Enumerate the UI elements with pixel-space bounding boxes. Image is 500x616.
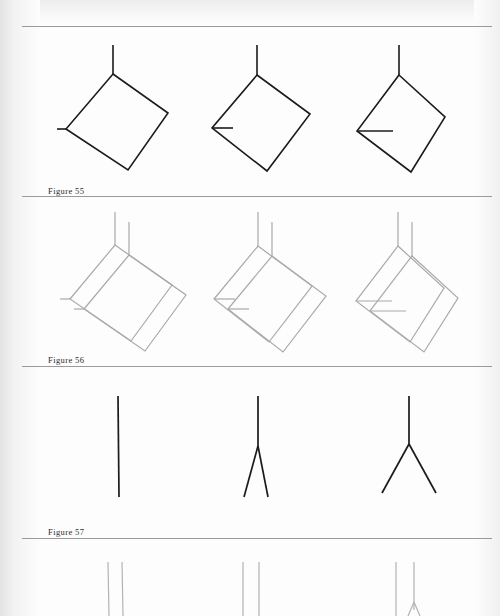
double-line-1-line-1 <box>122 562 123 616</box>
fork-2-narrow-branch-0 <box>244 446 258 497</box>
diamond-1-outline-0 <box>66 74 168 170</box>
fork-2-narrow-branch-1 <box>258 446 268 497</box>
double-diamond-1-outline-1 <box>84 255 186 351</box>
caption-figure-57: Figure 57 <box>48 527 84 537</box>
double-line-3-fork-0 <box>408 602 414 616</box>
scanned-page: Figure 55 Figure 56 Figure 57 <box>0 0 500 616</box>
double-diamond-3 <box>356 212 458 352</box>
caption-figure-56: Figure 56 <box>48 355 84 365</box>
double-line-3 <box>396 562 420 616</box>
double-diamond-3-outline-1 <box>370 256 458 352</box>
double-line-2 <box>243 562 259 616</box>
diamond-2 <box>212 45 310 171</box>
double-diamond-1 <box>60 212 186 351</box>
double-line-1-line-0 <box>108 562 109 616</box>
double-diamond-2 <box>214 212 326 352</box>
fork-3-wide <box>382 396 436 493</box>
figure-drawings <box>0 0 500 616</box>
fork-3-wide-branch-1 <box>409 444 436 493</box>
band-57 <box>118 396 436 497</box>
double-diamond-2-outline-0 <box>214 246 312 342</box>
double-line-1 <box>108 562 123 616</box>
double-diamond-1-outline-0 <box>70 245 172 341</box>
fork-2-narrow <box>244 396 268 497</box>
caption-figure-55: Figure 55 <box>48 186 84 196</box>
band-56 <box>60 212 458 352</box>
band-58-partial <box>108 562 420 616</box>
band-55 <box>57 45 445 172</box>
diamond-1 <box>57 45 168 170</box>
fork-3-wide-branch-0 <box>382 444 409 493</box>
diamond-3-outline-0 <box>357 75 445 172</box>
fork-1-straight-line <box>118 396 119 497</box>
fork-1-straight-line-stem-0 <box>118 396 119 497</box>
double-line-3-fork-1 <box>414 602 420 616</box>
diamond-3 <box>357 45 445 172</box>
double-diamond-3-outline-0 <box>356 246 444 342</box>
diamond-2-outline-0 <box>212 75 310 171</box>
double-diamond-2-outline-1 <box>228 256 326 352</box>
